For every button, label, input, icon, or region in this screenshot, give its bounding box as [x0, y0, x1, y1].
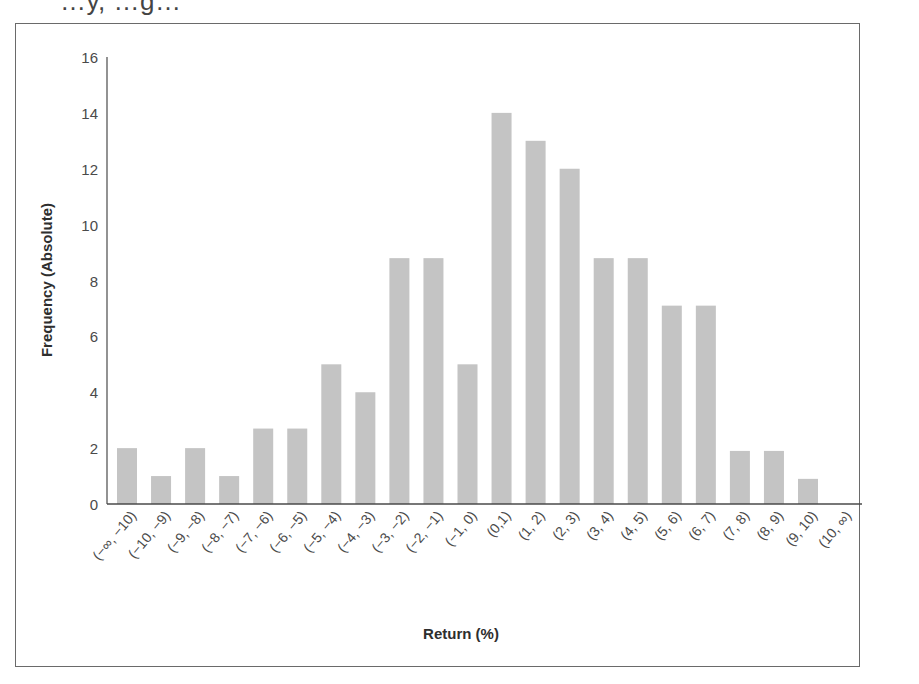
bar — [696, 306, 716, 504]
y-tick-label: 6 — [90, 328, 98, 345]
bar — [560, 169, 580, 504]
bar — [764, 451, 784, 504]
bar — [355, 392, 375, 504]
x-tick-label: (2, 3) — [549, 508, 582, 543]
y-tick-label: 4 — [90, 384, 98, 401]
bar — [423, 258, 443, 504]
bar — [321, 364, 341, 504]
bar — [526, 141, 546, 504]
bar — [458, 364, 478, 504]
bars — [117, 113, 818, 504]
bar — [492, 113, 512, 504]
x-tick-label: (9, 10) — [782, 508, 820, 549]
y-tick-label: 16 — [81, 49, 98, 66]
bar — [219, 476, 239, 504]
y-tick-label: 8 — [90, 273, 98, 290]
x-tick-label: (5, 6) — [651, 508, 684, 543]
x-tick-label: (8, 9) — [753, 508, 786, 543]
y-tick-label: 2 — [90, 440, 98, 457]
x-tick-label: (−2, −1) — [402, 508, 446, 556]
bar — [730, 451, 750, 504]
y-tick-label: 10 — [81, 217, 98, 234]
y-tick-label: 0 — [90, 496, 98, 513]
bar — [253, 429, 273, 504]
bar — [389, 258, 409, 504]
bar — [185, 448, 205, 504]
x-tick-label: (−1, 0) — [441, 508, 480, 550]
y-axis-title: Frequency (Absolute) — [38, 203, 55, 357]
x-tick-label: (10, ∞) — [815, 508, 855, 551]
x-tick-label: (1, 2) — [515, 508, 548, 543]
bar — [151, 476, 171, 504]
bar — [798, 479, 818, 504]
y-tick-label: 12 — [81, 161, 98, 178]
bar — [628, 258, 648, 504]
x-tick-label: (7, 8) — [719, 508, 752, 543]
x-tick-label: (6, 7) — [685, 508, 718, 543]
bar — [594, 258, 614, 504]
y-axis-ticks: 0246810121416 — [81, 49, 98, 513]
histogram-chart: 0246810121416 (−∞, −10)(−10, −9)(−9, −8)… — [0, 0, 919, 684]
bar — [287, 429, 307, 504]
x-tick-label: (4, 5) — [617, 508, 650, 543]
x-axis-tick-labels: (−∞, −10)(−10, −9)(−9, −8)(−8, −7)(−7, −… — [89, 508, 854, 563]
x-axis-title: Return (%) — [423, 625, 499, 642]
x-tick-label: (3, 4) — [583, 508, 616, 543]
bar — [117, 448, 137, 504]
x-tick-label: (0,1) — [483, 508, 514, 540]
y-tick-label: 14 — [81, 105, 98, 122]
bar — [662, 306, 682, 504]
